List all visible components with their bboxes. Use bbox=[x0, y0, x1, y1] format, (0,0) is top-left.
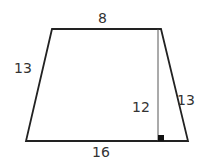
left-side-label: 13 bbox=[14, 60, 32, 76]
right-side-label: 13 bbox=[177, 92, 195, 108]
bottom-base-label: 16 bbox=[92, 144, 110, 160]
right-angle-marker bbox=[158, 135, 164, 141]
trapezoid-outline bbox=[26, 29, 188, 141]
height-label: 12 bbox=[132, 99, 150, 115]
top-base-label: 8 bbox=[98, 10, 107, 26]
trapezoid-diagram: 8 13 12 13 16 bbox=[0, 0, 200, 161]
